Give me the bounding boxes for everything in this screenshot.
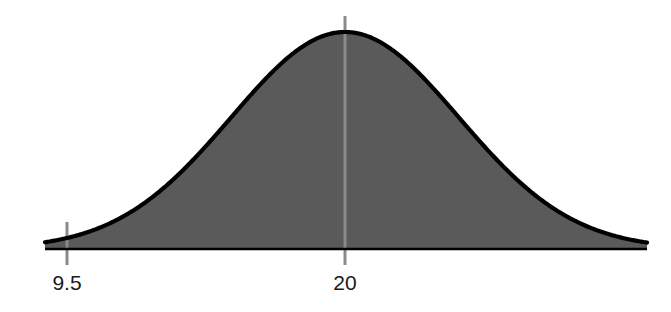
figure-canvas: 9.5 20 xyxy=(0,0,671,312)
lower-bound-tick-label: 9.5 xyxy=(52,271,81,294)
normal-distribution-plot: 9.5 20 xyxy=(0,0,671,312)
mean-tick-label: 20 xyxy=(333,271,356,294)
